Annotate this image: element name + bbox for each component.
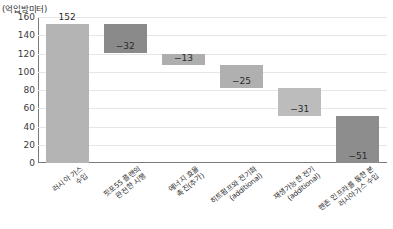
gridline xyxy=(38,108,387,109)
gridline xyxy=(38,145,387,146)
y-axis-tick-label: 60 xyxy=(1,103,35,113)
gridline xyxy=(38,54,387,55)
x-axis-line xyxy=(38,162,387,163)
gridline xyxy=(38,35,387,36)
y-axis-tick-label: 20 xyxy=(1,140,35,150)
bar-value-label: −32 xyxy=(104,41,147,51)
bar: −31 xyxy=(278,88,321,116)
y-axis-tick-label: 120 xyxy=(1,49,35,59)
gridline xyxy=(38,90,387,91)
bar: −13 xyxy=(162,54,205,66)
y-axis-tick-labels: 020406080100120140160 xyxy=(0,17,35,163)
bar: −32 xyxy=(104,24,147,53)
bar: −25 xyxy=(220,65,263,88)
bar: 152 xyxy=(46,24,89,163)
gridline xyxy=(38,72,387,73)
y-axis-tick-label: 0 xyxy=(1,158,35,168)
y-axis-tick-label: 100 xyxy=(1,67,35,77)
bar-value-label: 152 xyxy=(46,12,89,22)
bar-value-label: −31 xyxy=(278,104,321,114)
gridline xyxy=(38,17,387,18)
bar-value-label: −13 xyxy=(162,53,205,63)
bar-value-label: −51 xyxy=(336,151,379,161)
plot-area: 152−32−13−25−31−51 xyxy=(38,17,387,163)
bar-value-label: −25 xyxy=(220,76,263,86)
y-axis-tick-label: 140 xyxy=(1,30,35,40)
y-axis-tick-label: 80 xyxy=(1,85,35,95)
bar: −51 xyxy=(336,116,379,163)
y-axis-tick-label: 40 xyxy=(1,122,35,132)
x-axis-category-labels: 러시아 가스 수입핏포55 플랜의 완전한 시행에너지 효율 촉진(추가)히트펌… xyxy=(38,164,387,229)
y-axis-tick-label: 160 xyxy=(1,12,35,22)
waterfall-chart: (억입방미터) 020406080100120140160 152−32−13−… xyxy=(0,0,393,229)
gridline xyxy=(38,127,387,128)
